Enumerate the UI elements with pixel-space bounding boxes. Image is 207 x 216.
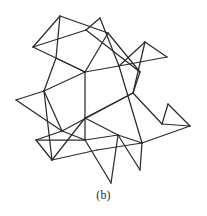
upper-left-spur (56, 16, 60, 58)
right-lower-connector (142, 126, 190, 143)
left-far-point-upper (16, 91, 44, 100)
center-to-upper-right (85, 66, 119, 72)
far-right-triangle-left (162, 104, 168, 124)
mid-left-span (62, 93, 133, 131)
right-upper-triangle-apex-right (145, 42, 167, 57)
bottom-mid-horizontal (85, 135, 118, 140)
bottom-mid-left-edge (85, 140, 111, 183)
lower-left-long-span (97, 143, 142, 150)
top-mid-cross-edge (86, 30, 140, 72)
bottom-right-triangle-right (140, 143, 142, 170)
bottom-right-triangle-left (118, 135, 140, 170)
segment-group (16, 16, 190, 183)
far-right-triangle-right (168, 104, 190, 126)
far-right-triangle-base (162, 124, 190, 126)
bottom-mid-right-edge (111, 135, 118, 183)
line-network-graphic (0, 0, 207, 216)
figure-panel: (b) (0, 0, 207, 216)
right-mid-descend (133, 72, 140, 93)
upper-right-cross (108, 33, 140, 72)
mid-left-brace (56, 58, 85, 72)
center-to-bottom-node (85, 118, 118, 135)
figure-caption: (b) (0, 188, 207, 203)
right-connector-to-mesh (133, 93, 162, 124)
